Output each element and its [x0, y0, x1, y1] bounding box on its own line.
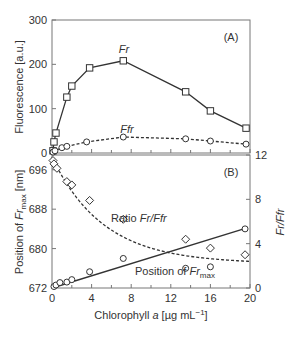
y-axis-title-b: Position of Frmax [nm] [13, 170, 28, 274]
y-tick-label-right: 0 [255, 282, 261, 294]
y-tick-label-b: 688 [29, 203, 47, 215]
x-tick-label: 0 [49, 292, 55, 304]
diamond-marker [182, 235, 190, 243]
chart-figure: 048121620010020030067268068869604812 (A)… [0, 0, 295, 339]
panel-a-label: (A) [224, 31, 239, 43]
y-tick-label-b: 672 [29, 282, 47, 294]
circle-marker [57, 280, 63, 286]
square-marker [207, 108, 213, 114]
circle-marker [87, 269, 93, 275]
diamond-marker [86, 196, 94, 204]
panel-a-frame [52, 20, 250, 153]
square-marker [120, 58, 126, 64]
ffr-series-label: Ffr [120, 123, 135, 135]
fr-line [53, 61, 246, 151]
circle-marker [183, 136, 189, 142]
x-axis-title: Chlorophyll a [µg mL−1] [94, 308, 207, 321]
circle-marker [84, 139, 90, 145]
diamond-marker [241, 251, 249, 259]
position-fit-line [52, 228, 247, 288]
y-tick-label-a: 0 [41, 147, 47, 159]
y-tick-label-right: 8 [255, 193, 261, 205]
position-series-label: Position of Frmax [135, 265, 215, 280]
square-marker [182, 89, 188, 95]
y-tick-label-right: 4 [255, 238, 261, 250]
circle-marker [242, 226, 248, 232]
fr-series-label: Fr [119, 43, 131, 55]
square-marker [243, 125, 249, 131]
circle-marker [52, 148, 58, 154]
series-layer [49, 58, 250, 290]
ratio-series-label: Ratio Fr/Ffr [111, 212, 168, 224]
diamond-marker [206, 244, 214, 252]
square-marker [86, 65, 92, 71]
x-tick-label: 8 [128, 292, 134, 304]
square-marker [53, 130, 59, 136]
y-tick-label-right: 12 [255, 149, 267, 161]
square-marker [69, 83, 75, 89]
y-axis-title-a: Fluorescence [a.u.] [13, 40, 25, 134]
square-marker [51, 139, 57, 145]
ffr-line [53, 137, 246, 152]
x-tick-label: 12 [165, 292, 177, 304]
circle-marker [207, 264, 213, 270]
square-marker [64, 94, 70, 100]
panel-b-label: (B) [224, 166, 239, 178]
y-tick-label-a: 100 [29, 103, 47, 115]
y-axis-title-right: Fr/Ffr [274, 207, 286, 235]
y-tick-label-b: 680 [29, 243, 47, 255]
circle-marker [64, 143, 70, 149]
x-tick-label: 4 [89, 292, 95, 304]
circle-marker [207, 138, 213, 144]
axis-ticks [52, 20, 250, 288]
y-tick-label-a: 200 [29, 58, 47, 70]
ratio-fit-line [52, 157, 250, 261]
y-tick-label-b: 696 [29, 164, 47, 176]
circle-marker [69, 277, 75, 283]
circle-marker [120, 255, 126, 261]
y-tick-label-a: 300 [29, 14, 47, 26]
x-tick-label: 16 [204, 292, 216, 304]
circle-marker [243, 141, 249, 147]
